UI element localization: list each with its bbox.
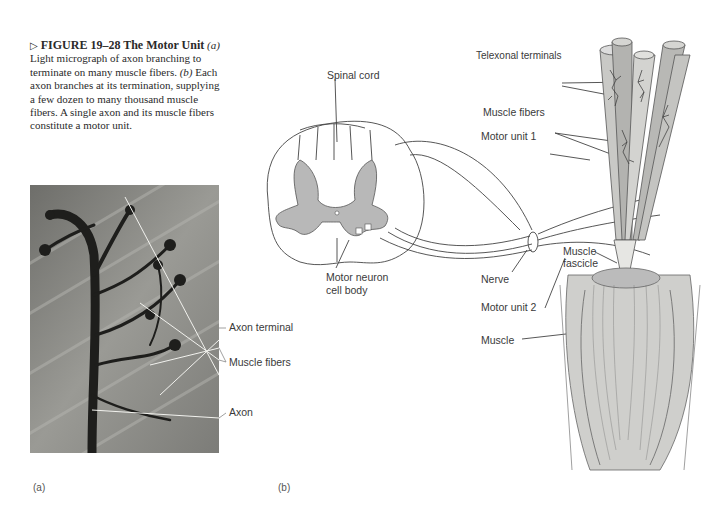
label-motor-neuron-line2: cell body [326, 284, 367, 296]
label-muscle: Muscle [481, 334, 514, 346]
label-motor-neuron-line1: Motor neuron [326, 271, 388, 283]
label-spinal-cord: Spinal cord [327, 69, 380, 81]
label-motor-unit-1: Motor unit 1 [481, 130, 536, 142]
label-motor-unit-2: Motor unit 2 [481, 301, 536, 313]
label-muscle-fascicle-line2: fascicle [563, 257, 598, 269]
label-muscle-fibers-b: Muscle fibers [483, 106, 545, 118]
label-nerve: Nerve [481, 273, 509, 285]
panel-label-b: (b) [278, 482, 290, 493]
label-axonal-terminals: Telexonal terminals [476, 50, 562, 62]
label-muscle-fascicle-line1: Muscle [563, 245, 596, 257]
